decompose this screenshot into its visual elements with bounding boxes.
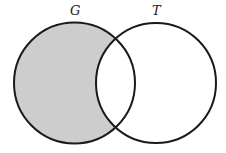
set-g-label: G	[70, 4, 80, 17]
venn-diagram: G T	[0, 0, 226, 153]
venn-svg	[0, 0, 226, 153]
set-t-label: T	[152, 4, 161, 17]
